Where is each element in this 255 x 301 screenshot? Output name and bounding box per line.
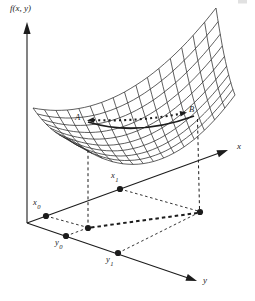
vertical-dashed-b xyxy=(198,119,200,209)
point-dot-p1 xyxy=(197,209,203,215)
x-axis-line xyxy=(27,152,222,223)
point-dot-y1 xyxy=(115,250,121,256)
x1-tick-label: x1 xyxy=(111,171,118,182)
x-axis-arrow-icon xyxy=(216,150,228,157)
point-dot-y0 xyxy=(63,233,69,239)
chord-arrow-b-icon xyxy=(180,111,187,117)
x0-sub: 0 xyxy=(37,203,40,210)
point-dot-x1 xyxy=(117,186,123,192)
dashed-y1-line xyxy=(118,214,197,254)
dashed-x1-line xyxy=(120,189,198,211)
y0-sub: 0 xyxy=(59,243,62,250)
y0-tick-label: y0 xyxy=(55,238,62,249)
z-axis-label: f(x, y) xyxy=(10,4,31,13)
y-axis-label: y xyxy=(203,276,207,285)
y1-tick-label: y1 xyxy=(106,255,113,266)
point-dot-x0 xyxy=(43,213,49,219)
x0-tick-label: x0 xyxy=(33,198,40,209)
y-axis-arrow-icon xyxy=(185,274,197,281)
scan-artifact xyxy=(238,0,247,4)
plane-segment-dashed xyxy=(91,213,197,228)
surface-plot-svg xyxy=(0,0,255,301)
x-axis-label: x xyxy=(237,142,241,151)
surface-mesh xyxy=(33,8,235,164)
y-axis-line xyxy=(27,223,191,279)
point-b-label: B xyxy=(189,105,194,114)
z-axis-arrow-icon xyxy=(23,22,30,34)
point-dot-p0 xyxy=(85,225,91,231)
x1-sub: 1 xyxy=(115,176,118,183)
dashed-x0-line xyxy=(46,216,86,227)
y1-sub: 1 xyxy=(110,260,113,267)
dashed-y0-line xyxy=(66,229,86,237)
figure-container: f(x, y) x y A B x0 x1 y0 y1 xyxy=(0,0,255,301)
point-a-label: A xyxy=(75,113,80,122)
